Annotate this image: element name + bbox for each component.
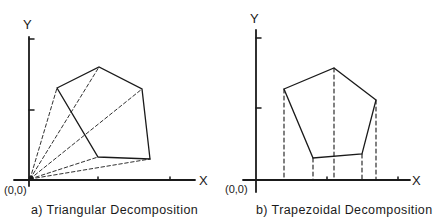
caption-b: b) Trapezoidal Decomposition [256,203,433,217]
panel-b-decomposition [284,68,376,180]
x-axis-label-a: X [199,173,208,188]
panel-a-axes [14,37,195,186]
origin-point-a [29,176,34,181]
origin-label-b: (0,0) [225,183,248,195]
panel-b-polygon [284,68,376,158]
panel-b-axes [243,30,410,192]
origin-label-a: (0,0) [4,184,27,196]
y-axis-label-a: Y [23,17,32,32]
x-axis-label-b: X [412,173,421,188]
y-axis-label-b: Y [250,11,259,26]
caption-a: a) Triangular Decomposition [31,203,198,217]
